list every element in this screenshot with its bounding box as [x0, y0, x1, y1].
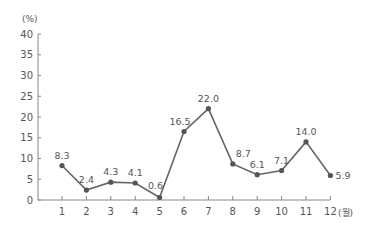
- x-tick-label: 2: [83, 206, 89, 217]
- data-point-marker: [133, 180, 138, 185]
- data-point-marker: [255, 172, 260, 177]
- x-tick-label: 3: [108, 206, 114, 217]
- data-point-marker: [181, 129, 186, 134]
- data-value-label: 4.1: [128, 167, 143, 178]
- x-tick-label: 6: [181, 206, 187, 217]
- y-tick-label: 15: [20, 132, 33, 143]
- x-tick-label: 1: [59, 206, 65, 217]
- data-point-marker: [230, 161, 235, 166]
- data-value-label: 16.5: [169, 116, 190, 127]
- x-tick-label: 11: [300, 206, 313, 217]
- data-point-marker: [108, 180, 113, 185]
- y-axis: 0510152025303540: [20, 29, 41, 206]
- data-series: 8.32.44.34.10.616.522.08.76.17.114.05.9: [54, 93, 350, 200]
- y-axis-unit-label: (%): [22, 14, 38, 24]
- data-value-label: 22.0: [198, 93, 219, 104]
- x-tick-label: 12: [324, 206, 337, 217]
- data-point-marker: [303, 139, 308, 144]
- y-tick-label: 10: [20, 153, 33, 164]
- data-value-label: 7.1: [274, 155, 289, 166]
- y-tick-label: 0: [27, 195, 33, 206]
- y-tick-label: 20: [20, 112, 33, 123]
- x-tick-label: 5: [156, 206, 162, 217]
- data-value-label: 5.9: [335, 170, 350, 181]
- data-value-label: 8.7: [236, 148, 251, 159]
- x-tick-label: 9: [254, 206, 260, 217]
- data-point-marker: [84, 187, 89, 192]
- data-value-label: 4.3: [103, 166, 118, 177]
- x-tick-label: 4: [132, 206, 138, 217]
- y-tick-label: 40: [20, 29, 33, 40]
- data-point-marker: [206, 106, 211, 111]
- data-value-label: 14.0: [295, 126, 316, 137]
- data-point-marker: [59, 163, 64, 168]
- data-value-label: 0.6: [148, 180, 163, 191]
- y-tick-label: 30: [20, 70, 33, 81]
- y-tick-label: 35: [20, 49, 33, 60]
- x-axis: 123456789101112: [38, 196, 337, 217]
- data-value-label: 2.4: [79, 174, 94, 185]
- y-tick-label: 5: [27, 174, 33, 185]
- data-point-marker: [279, 168, 284, 173]
- data-point-marker: [157, 195, 162, 200]
- data-value-label: 6.1: [250, 159, 265, 170]
- x-axis-unit-label: (월): [338, 207, 353, 218]
- series-line: [62, 109, 330, 198]
- x-tick-label: 10: [275, 206, 288, 217]
- x-tick-label: 8: [230, 206, 236, 217]
- y-tick-label: 25: [20, 91, 33, 102]
- data-point-marker: [328, 173, 333, 178]
- x-tick-label: 7: [205, 206, 211, 217]
- line-chart: (%) 0510152025303540 123456789101112 8.3…: [0, 0, 366, 232]
- data-value-label: 8.3: [54, 150, 69, 161]
